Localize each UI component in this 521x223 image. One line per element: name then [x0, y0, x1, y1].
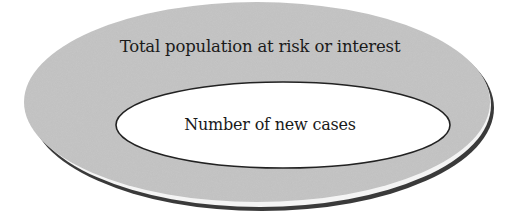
incidence-diagram: Total population at risk or interest Num…: [0, 0, 521, 223]
inner-new-cases-label: Number of new cases: [170, 115, 370, 134]
outer-population-label: Total population at risk or interest: [100, 37, 420, 56]
diagram-shapes: [0, 0, 521, 223]
